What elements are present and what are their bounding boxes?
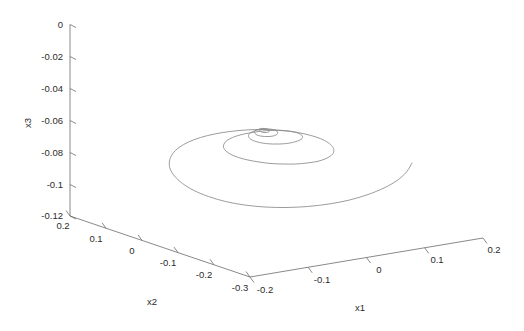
x1-axis: -0.2 -0.1 0 0.1 0.2 x1 [250, 238, 501, 313]
x2-axis-title: x2 [147, 296, 157, 307]
x1-tick-label-1: -0.1 [314, 274, 330, 285]
x3-tick-marks [70, 25, 76, 220]
x1-tick-marks [250, 238, 487, 283]
x3-tick-label-1: -0.02 [41, 51, 63, 62]
x2-axis: 0.2 0.1 0 -0.1 -0.2 -0.3 x2 [56, 211, 250, 308]
x3-axis-title: x3 [22, 118, 33, 128]
x1-tick-label-3: 0.1 [430, 254, 443, 265]
x3-tick-labels: 0 -0.02 -0.04 -0.06 -0.08 -0.1 -0.12 [41, 19, 63, 221]
x2-tick-label-4: -0.2 [196, 269, 212, 280]
x3-tick-label-5: -0.1 [47, 179, 63, 190]
x2-tick-label-5: -0.3 [232, 282, 248, 293]
trajectory-group [169, 128, 412, 207]
x3-tick-label-2: -0.04 [41, 83, 63, 94]
figure-canvas: 0 -0.02 -0.04 -0.06 -0.08 -0.1 -0.12 x3 [0, 0, 524, 331]
x2-tick-label-0: 0.2 [56, 220, 69, 231]
x1-axis-title: x1 [355, 302, 365, 313]
x3-axis: 0 -0.02 -0.04 -0.06 -0.08 -0.1 -0.12 x3 [22, 19, 76, 221]
3d-plot: 0 -0.02 -0.04 -0.06 -0.08 -0.1 -0.12 x3 [0, 0, 524, 331]
x3-tick-label-0: 0 [58, 19, 63, 30]
x2-tick-label-1: 0.1 [89, 233, 102, 244]
spiral-trajectory-curve [169, 128, 412, 207]
x1-tick-label-2: 0 [376, 264, 381, 275]
x3-tick-label-3: -0.06 [41, 115, 63, 126]
x2-tick-labels: 0.2 0.1 0 -0.1 -0.2 -0.3 [56, 220, 248, 293]
x3-tick-label-4: -0.08 [41, 147, 63, 158]
x2-tick-label-2: 0 [129, 245, 134, 256]
x1-tick-label-0: -0.2 [257, 284, 273, 295]
x1-tick-label-4: 0.2 [487, 244, 500, 255]
x2-tick-label-3: -0.1 [160, 257, 176, 268]
